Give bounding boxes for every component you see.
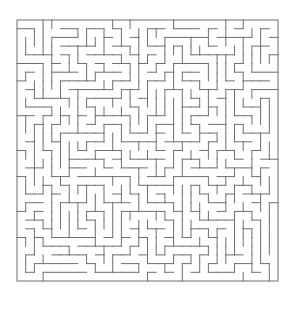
maze-figure xyxy=(0,0,296,311)
maze-canvas xyxy=(0,0,296,311)
maze-page xyxy=(0,0,296,311)
